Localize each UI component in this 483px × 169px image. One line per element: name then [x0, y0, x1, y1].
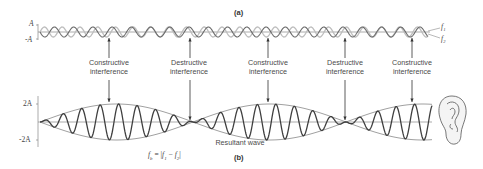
- axis-label-2a: 2A: [23, 99, 32, 108]
- annotation-destructive-2: Destructive interference: [320, 59, 370, 76]
- axis-label-neg-2a: -2A: [19, 135, 31, 144]
- wave-label-f1: f₁: [441, 22, 446, 31]
- resultant-wave-caption: Resultant wave: [210, 139, 270, 148]
- axis-label-a: A: [29, 19, 34, 28]
- panel-a-label: (a): [234, 8, 243, 17]
- wave-label-leaders: [428, 28, 440, 38]
- ear-icon: [439, 96, 466, 144]
- annotation-constructive-1: Constructive interference: [84, 59, 134, 76]
- annotation-constructive-3: Constructive interference: [387, 59, 437, 76]
- interference-arrows: [107, 38, 413, 120]
- wave-label-f2: f₂: [441, 34, 446, 43]
- annotation-constructive-2: Constructive interference: [243, 59, 293, 76]
- panel-b-label: (b): [234, 153, 244, 162]
- annotation-destructive-1: Destructive interference: [164, 59, 214, 76]
- axis-label-neg-a: -A: [25, 35, 32, 44]
- beat-frequency-formula: fb = |f1 − f2|: [148, 150, 181, 161]
